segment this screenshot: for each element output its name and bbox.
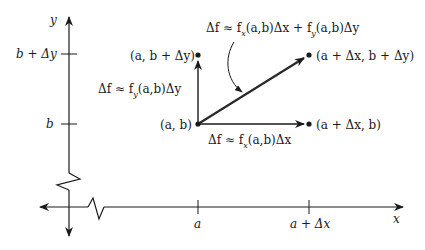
diagram-canvas: y x b + Δy b a a + Δx (a, b) (a, b + Δy)… xyxy=(0,0,425,250)
y-axis-break-icon xyxy=(57,173,80,190)
point-right xyxy=(306,121,311,126)
y-axis xyxy=(57,17,80,236)
y-axis-label: y xyxy=(49,13,57,27)
callout-arrow-icon xyxy=(228,42,242,92)
point-top xyxy=(195,52,200,57)
y-tick-label-b-plus-dy: b + Δy xyxy=(16,47,57,61)
annotation-vertical: Δf ≈ fy(a,b)Δy xyxy=(98,82,181,99)
diagonal-vector xyxy=(198,58,304,124)
point-label-base: (a, b) xyxy=(160,118,192,132)
annotation-horizontal: Δf ≈ fx(a,b)Δx xyxy=(208,133,291,150)
point-label-top: (a, b + Δy) xyxy=(130,49,195,63)
x-axis xyxy=(40,198,403,219)
x-axis-break-icon xyxy=(88,198,104,219)
y-tick-label-b: b xyxy=(46,117,54,131)
annotation-diagonal: Δf ≈ fx(a,b)Δx + fy(a,b)Δy xyxy=(206,21,360,38)
x-tick-label-a-plus-dx: a + Δx xyxy=(290,217,331,231)
point-label-diagonal: (a + Δx, b + Δy) xyxy=(316,49,414,63)
point-label-right: (a + Δx, b) xyxy=(316,118,381,132)
point-diagonal xyxy=(306,52,311,57)
x-tick-label-a: a xyxy=(194,217,201,231)
x-axis-label: x xyxy=(393,212,400,226)
point-base xyxy=(195,121,200,126)
vectors xyxy=(198,42,304,124)
